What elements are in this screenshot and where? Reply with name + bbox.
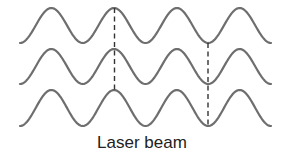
diagram-caption: Laser beam bbox=[0, 133, 284, 153]
light-wave-2 bbox=[20, 49, 271, 84]
light-wave-1 bbox=[20, 8, 271, 43]
light-wave-3 bbox=[20, 90, 271, 126]
wave-group bbox=[20, 8, 271, 126]
